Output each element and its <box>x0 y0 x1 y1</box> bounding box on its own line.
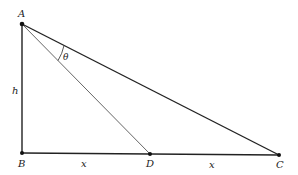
segment-ad <box>22 24 150 154</box>
label-b: B <box>17 158 25 169</box>
label-x-left: x <box>81 158 87 169</box>
label-a: A <box>17 8 25 19</box>
triangle-diagram: A B D C h x x θ <box>0 0 298 175</box>
point-a <box>20 22 25 27</box>
label-x-right: x <box>209 159 215 170</box>
label-d: D <box>145 158 154 169</box>
point-d <box>148 152 152 156</box>
segment-ac <box>22 24 279 155</box>
point-c <box>277 153 281 157</box>
point-b <box>20 151 24 155</box>
label-theta: θ <box>63 52 69 62</box>
label-c: C <box>276 159 284 170</box>
label-h: h <box>12 85 18 96</box>
